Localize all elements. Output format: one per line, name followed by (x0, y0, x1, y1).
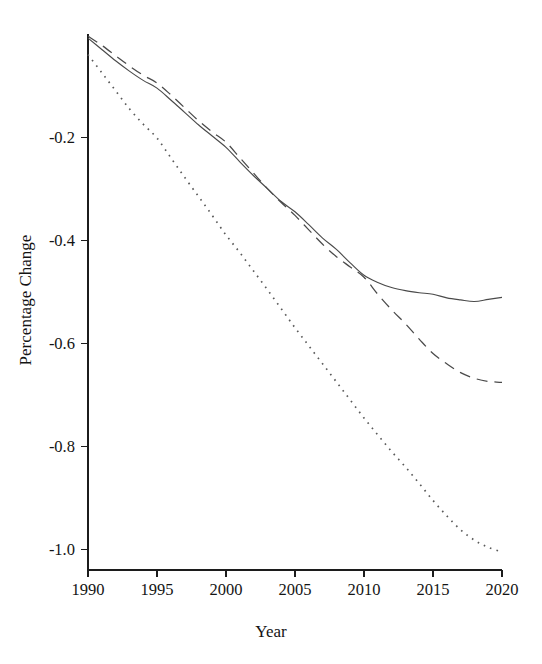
line-chart: -0.2-0.4-0.6-0.8-1.019901995200020052010… (0, 0, 542, 664)
x-tick-label: 2020 (486, 580, 519, 599)
x-tick-label: 1990 (72, 580, 105, 599)
x-axis-ticks (88, 570, 502, 577)
chart-figure: -0.2-0.4-0.6-0.8-1.019901995200020052010… (0, 0, 542, 664)
x-tick-label: 2015 (417, 580, 450, 599)
x-tick-label: 1995 (141, 580, 174, 599)
series-dotted (88, 55, 502, 552)
y-tick-label: -0.8 (49, 437, 75, 456)
x-axis-title: Year (255, 622, 287, 641)
y-tick-label: -1.0 (49, 540, 75, 559)
x-tick-label: 2000 (210, 580, 243, 599)
y-tick-label: -0.4 (49, 231, 75, 250)
series-dashed (88, 36, 502, 382)
y-axis-ticks (81, 137, 88, 549)
y-axis-title: Percentage Change (16, 235, 35, 366)
tick-labels: -0.2-0.4-0.6-0.8-1.019901995200020052010… (49, 128, 519, 599)
x-tick-label: 2005 (279, 580, 312, 599)
y-tick-label: -0.2 (49, 128, 75, 147)
axes (81, 34, 502, 577)
data-series-group (88, 36, 502, 552)
y-tick-label: -0.6 (49, 334, 75, 353)
series-solid (88, 38, 502, 301)
x-tick-label: 2010 (348, 580, 381, 599)
